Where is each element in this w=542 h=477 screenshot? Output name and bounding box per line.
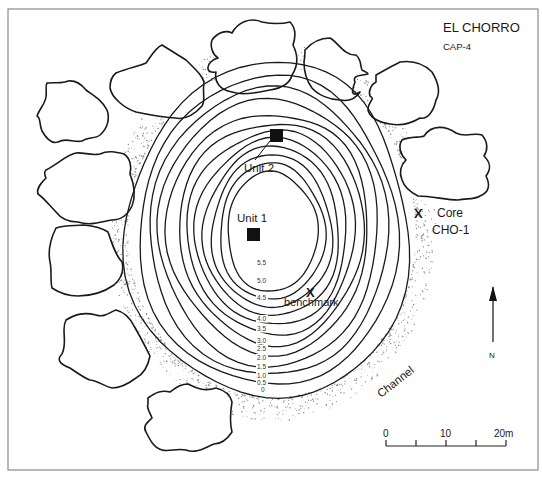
core-id-label: CHO-1 (432, 223, 470, 237)
contour-line (228, 171, 318, 291)
map-title: EL CHORRO (443, 20, 520, 35)
contour-label: 1.0 (257, 372, 266, 379)
north-arrow-head-icon (489, 286, 497, 301)
boulder (400, 127, 490, 200)
contour-label: 4.5 (257, 294, 266, 301)
unit-2-marker (270, 129, 283, 142)
north-label: N (489, 351, 495, 360)
map-subtitle: CAP-4 (443, 41, 471, 52)
contour-line (180, 125, 365, 347)
unit-2-leader-line (255, 141, 270, 160)
boulder (368, 62, 439, 125)
contour-label: 0 (261, 386, 265, 393)
boulder (49, 225, 122, 296)
core-label: Core (437, 206, 463, 220)
contour-label: 2.5 (257, 345, 266, 352)
boulder (38, 152, 135, 224)
unit-1-marker (247, 228, 260, 241)
scale-bar: 0 10 20m (383, 428, 513, 446)
scale-tick-0: 0 (383, 428, 389, 439)
contour-label: 3.0 (257, 337, 266, 344)
boulder (59, 310, 150, 388)
contour-label: 1.5 (257, 363, 266, 370)
boulder (37, 81, 108, 143)
contour-label: 5.5 (257, 259, 266, 266)
contour-line (221, 163, 326, 299)
boulder (145, 384, 232, 451)
boulder (208, 20, 297, 94)
contour-labels: 5.55.04.54.03.53.02.52.01.51.00.50 (256, 259, 268, 394)
unit-1-label: Unit 1 (237, 212, 267, 224)
unit-2-label: Unit 2 (244, 162, 274, 174)
site-map: 5.55.04.54.03.53.02.52.01.51.00.50 Unit … (0, 0, 542, 477)
scale-tick-10: 10 (440, 428, 452, 439)
benchmark-label: benchmark (284, 296, 339, 308)
north-arrow: N (489, 286, 497, 360)
contour-line (150, 86, 389, 373)
contour-label: 0.5 (257, 379, 266, 386)
contour-line (140, 75, 399, 384)
contour-label: 2.0 (257, 354, 266, 361)
scale-tick-20m: 20m (494, 428, 513, 439)
core-x-marker: X (414, 206, 423, 221)
channel-label: Channel (375, 364, 416, 400)
contour-label: 3.5 (257, 325, 266, 332)
contour-label: 5.0 (257, 277, 266, 284)
contour-label: 4.0 (257, 315, 266, 322)
boulder (304, 38, 368, 101)
boulder (110, 45, 204, 118)
